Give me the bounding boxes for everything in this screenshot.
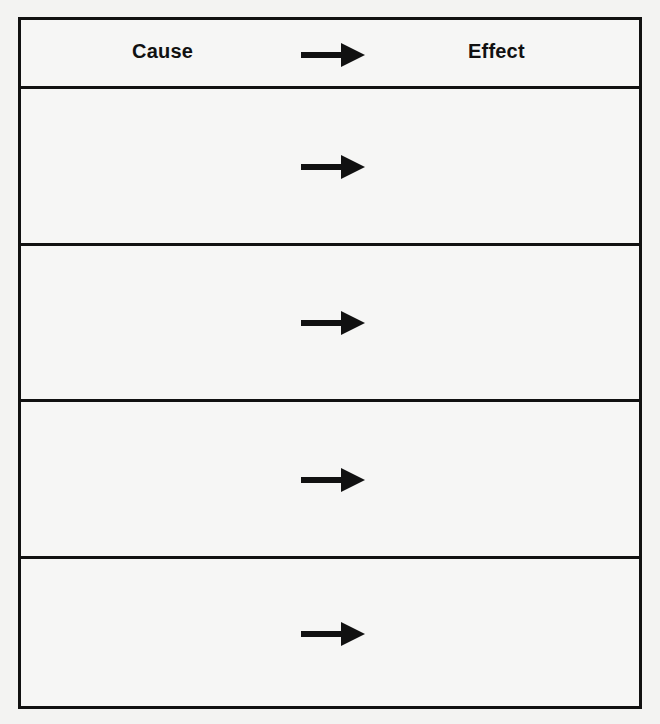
effect-cell[interactable] bbox=[381, 402, 639, 556]
organizer-row-3 bbox=[21, 399, 639, 556]
header-row: Cause Effect bbox=[21, 20, 639, 86]
effect-cell[interactable] bbox=[381, 89, 639, 243]
cause-cell[interactable] bbox=[21, 559, 291, 706]
cause-header: Cause bbox=[132, 40, 193, 63]
cause-cell[interactable] bbox=[21, 246, 291, 399]
cause-cell[interactable] bbox=[21, 89, 291, 243]
effect-cell[interactable] bbox=[381, 246, 639, 399]
effect-header: Effect bbox=[468, 40, 525, 63]
right-arrow-icon bbox=[301, 43, 365, 67]
right-arrow-icon bbox=[301, 622, 365, 646]
right-arrow-icon bbox=[301, 311, 365, 335]
cause-effect-organizer: Cause Effect bbox=[18, 17, 642, 709]
right-arrow-icon bbox=[301, 468, 365, 492]
organizer-row-1 bbox=[21, 86, 639, 243]
right-arrow-icon bbox=[301, 155, 365, 179]
cause-cell[interactable] bbox=[21, 402, 291, 556]
organizer-row-4 bbox=[21, 556, 639, 706]
organizer-row-2 bbox=[21, 243, 639, 399]
effect-cell[interactable] bbox=[381, 559, 639, 706]
